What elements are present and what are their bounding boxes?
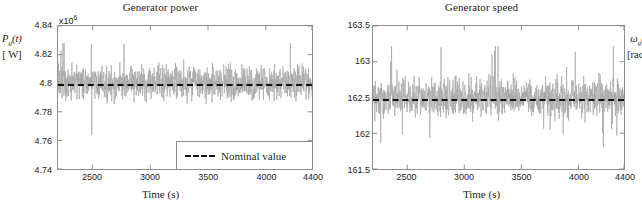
y-tick-label: 4.76: [34, 136, 52, 146]
y-axis-arg-power: (t): [12, 33, 22, 44]
y-tick-label: 4.82: [34, 49, 52, 59]
x-tick-label: 2500: [396, 172, 416, 182]
y-tick-label: 4.78: [34, 107, 52, 117]
x-tick-label: 4000: [569, 172, 589, 182]
y-exponent-power-power: 6: [74, 14, 78, 21]
x-tick-label: 4000: [256, 172, 276, 182]
y-tick-label: 162.5: [347, 93, 370, 103]
nominal-value-line-power: [58, 84, 312, 86]
nominal-value-line-speed: [373, 99, 624, 101]
panel-generator-power: Generator power x106 Pg(t) [ W] 4.844.82…: [0, 0, 321, 212]
x-tick-label: 3500: [198, 172, 218, 182]
x-tick-label: 3000: [454, 172, 474, 182]
y-tick-label: 4.74: [34, 165, 52, 175]
x-tick-label: 2500: [82, 172, 102, 182]
plot-title-generator-power: Generator power: [0, 1, 321, 13]
y-tick-labels-power: 4.844.824.84.784.764.74: [22, 25, 52, 170]
data-trace-generator-speed: [373, 26, 624, 169]
x-tick-labels-speed: 25003000350040004400: [372, 172, 625, 186]
x-tick-labels-power: 25003000350040004400: [57, 172, 313, 186]
x-tick-label: 4400: [615, 172, 635, 182]
x-tick-label: 3500: [511, 172, 531, 182]
x-tick-label: 3000: [140, 172, 160, 182]
y-axis-label-speed: ωg(t) [rad/s]: [627, 33, 642, 61]
y-tick-label: 163.5: [347, 20, 370, 30]
y-tick-label: 4.84: [34, 20, 52, 30]
plot-title-generator-speed: Generator speed: [321, 1, 642, 13]
plot-area-generator-speed: [372, 25, 625, 170]
figure-generator-signals: Generator power x106 Pg(t) [ W] 4.844.82…: [0, 0, 642, 212]
y-tick-label: 162: [355, 129, 370, 139]
y-tick-labels-speed: 163.5163162.5162161.5: [335, 25, 370, 170]
legend-label-power: Nominal value: [221, 150, 286, 162]
y-axis-units-power: [ W]: [2, 49, 21, 60]
y-tick-label: 161.5: [347, 165, 370, 175]
y-tick-label: 163: [355, 56, 370, 66]
y-tick-label: 4.8: [39, 78, 52, 88]
x-tick-label: 4400: [303, 172, 323, 182]
legend-dash-icon: [185, 151, 215, 161]
x-axis-label-speed: Time (s): [321, 188, 642, 200]
legend-generator-power: Nominal value: [176, 141, 313, 170]
y-axis-symbol-speed: ω: [630, 33, 637, 44]
x-axis-label-power: Time (s): [0, 188, 321, 200]
y-axis-label-power: Pg(t) [ W]: [2, 33, 22, 61]
y-axis-units-speed: [rad/s]: [627, 49, 642, 60]
